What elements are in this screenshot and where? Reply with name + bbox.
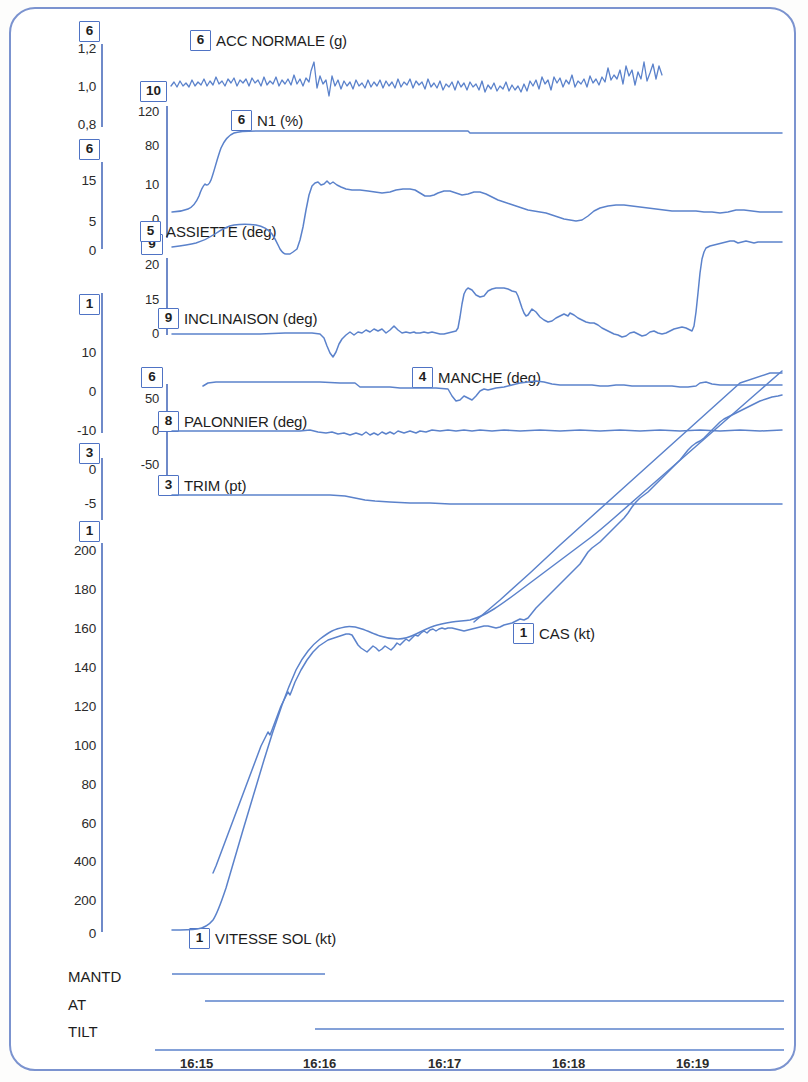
trace-vitesse-sol xyxy=(172,371,782,930)
fdr-chart-page: 6 1,2 1,0 0,8 6 15 5 0 1 10 0 -10 3 0 -5… xyxy=(0,0,808,1082)
trace-inclinaison xyxy=(172,241,782,357)
trace-palonnier xyxy=(172,430,782,435)
chart-traces-canvas xyxy=(0,0,808,1082)
trace-trim xyxy=(172,495,782,504)
trace-manche xyxy=(203,381,782,401)
trace-n1 xyxy=(172,131,782,212)
trace-acc-normale xyxy=(171,62,662,96)
trace-cas-climb xyxy=(474,373,782,622)
trace-assiette xyxy=(172,181,782,254)
trace-cas xyxy=(213,395,782,873)
